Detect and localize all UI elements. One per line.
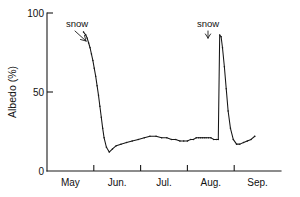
data-point — [89, 47, 91, 49]
data-point — [225, 88, 227, 90]
data-point — [227, 110, 229, 112]
data-point — [208, 137, 210, 139]
x-tick-label-aug: Aug. — [201, 177, 222, 188]
data-point — [230, 128, 232, 130]
data-point — [95, 75, 97, 77]
data-point — [149, 135, 151, 137]
data-point — [175, 139, 177, 141]
albedo-chart-figure: 100 50 0 Albedo (%) May Jun. Jul. Aug. S… — [0, 0, 300, 197]
data-point — [98, 94, 100, 96]
data-point — [96, 85, 98, 87]
data-point — [99, 105, 101, 107]
y-tick-label-0: 0 — [38, 166, 44, 177]
data-point — [254, 135, 256, 137]
data-point — [87, 38, 89, 40]
data-point — [112, 148, 114, 150]
data-point — [179, 140, 181, 142]
data-point — [131, 140, 133, 142]
annotation-layer: snow snow — [66, 18, 219, 41]
data-point — [120, 143, 122, 145]
data-point — [101, 117, 103, 119]
data-point — [210, 137, 212, 139]
data-point — [106, 147, 108, 149]
x-tick-label-may: May — [61, 177, 80, 188]
y-axis-title: Albedo (%) — [6, 66, 18, 118]
data-point — [202, 137, 204, 139]
data-point — [102, 128, 104, 130]
data-point — [83, 31, 85, 33]
x-axis-group: May Jun. Jul. Aug. Sep. — [47, 165, 281, 188]
snow-annotation-label-1: snow — [66, 18, 88, 29]
data-point — [250, 139, 252, 141]
data-point — [155, 135, 157, 137]
data-point — [198, 137, 200, 139]
data-point — [233, 139, 235, 141]
data-point — [213, 139, 215, 141]
data-point — [144, 137, 146, 139]
x-tick-label-sep: Sep. — [247, 177, 268, 188]
data-point — [239, 143, 241, 145]
data-point — [92, 60, 94, 62]
data-point — [190, 139, 192, 141]
data-point — [171, 139, 173, 141]
data-series-layer — [83, 31, 256, 153]
data-point — [187, 140, 189, 142]
data-point — [196, 137, 198, 139]
data-point — [204, 137, 206, 139]
data-point — [243, 142, 245, 144]
data-point — [247, 140, 249, 142]
data-point — [108, 151, 110, 153]
y-axis-group: 100 50 0 Albedo (%) — [6, 8, 53, 177]
data-point — [222, 47, 224, 49]
x-tick-label-jul: Jul. — [156, 177, 172, 188]
data-point — [138, 139, 140, 141]
x-tick-label-jun: Jun. — [108, 177, 127, 188]
data-point — [85, 34, 87, 36]
y-tick-label-50: 50 — [33, 87, 45, 98]
data-point — [193, 139, 195, 141]
data-point — [200, 137, 202, 139]
data-point — [183, 140, 185, 142]
data-point — [91, 53, 93, 55]
data-point — [218, 139, 220, 141]
albedo-time-series-chart: 100 50 0 Albedo (%) May Jun. Jul. Aug. S… — [0, 0, 300, 197]
data-point — [116, 145, 118, 147]
data-point — [219, 34, 221, 36]
data-point — [94, 68, 96, 70]
data-point — [126, 142, 128, 144]
data-point — [224, 66, 226, 68]
data-point — [236, 143, 238, 145]
data-point — [88, 42, 90, 44]
data-point — [166, 137, 168, 139]
data-point — [103, 137, 105, 139]
snow-annotation-label-2: snow — [197, 18, 219, 29]
data-point — [161, 137, 163, 139]
y-tick-label-100: 100 — [27, 8, 44, 19]
data-point — [220, 36, 222, 38]
data-point — [216, 139, 218, 141]
data-curve-1 — [84, 32, 255, 152]
data-point — [205, 137, 207, 139]
